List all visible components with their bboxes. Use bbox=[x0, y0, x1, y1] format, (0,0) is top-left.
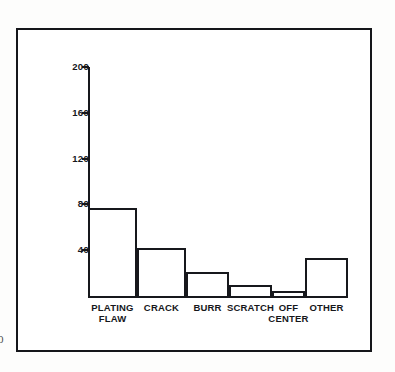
y-tick-label-wrap: 40 bbox=[48, 244, 89, 256]
y-tick-label-wrap: 120 bbox=[48, 153, 89, 165]
y-tick-label: 40 bbox=[63, 244, 89, 255]
x-category-label: OTHER bbox=[287, 302, 367, 313]
bar bbox=[272, 291, 305, 298]
y-tick-label: 200 bbox=[63, 61, 89, 72]
bar-chart: 4080120160200 PLATING FLAWCRACKBURRSCRAT… bbox=[0, 0, 395, 372]
bar bbox=[229, 285, 272, 298]
bar bbox=[88, 208, 137, 298]
bar bbox=[186, 272, 229, 298]
y-tick-label-wrap: 80 bbox=[48, 198, 89, 210]
y-tick-label: 80 bbox=[63, 198, 89, 209]
y-tick-label-wrap: 200 bbox=[48, 61, 89, 73]
y-tick-label: 120 bbox=[63, 153, 89, 164]
y-tick-label-wrap: 160 bbox=[48, 107, 89, 119]
bar bbox=[305, 258, 348, 298]
y-tick-label: 160 bbox=[63, 107, 89, 118]
bar bbox=[137, 248, 186, 298]
